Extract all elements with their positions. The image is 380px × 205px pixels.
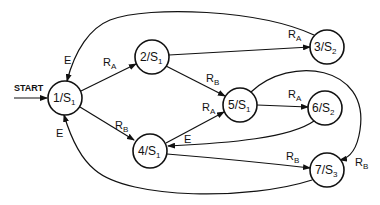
edge-5-6: RA: [257, 88, 308, 107]
svg-text:E: E: [184, 133, 191, 145]
svg-text:RB: RB: [206, 72, 219, 87]
state-node-2: 2/S1: [135, 40, 169, 74]
edge-2-3: RA: [169, 28, 310, 55]
start-label: START: [14, 83, 44, 93]
state-node-6: 6/S2: [308, 91, 342, 125]
state-node-1: 1/S1: [48, 81, 82, 115]
edge-3-1: E: [64, 12, 314, 81]
edge-2-5: RB: [166, 66, 225, 96]
edge-4-5: RA: [166, 101, 224, 143]
edge-1-4: RB: [80, 107, 134, 140]
svg-text:E: E: [64, 54, 71, 66]
svg-text:RB: RB: [286, 150, 299, 165]
svg-text:E: E: [56, 127, 63, 139]
svg-text:RA: RA: [288, 88, 302, 103]
edge-1-2: RA: [81, 56, 136, 91]
edge-7-1: E: [56, 115, 312, 194]
state-diagram: START RA RB RA RB RA RB RA RB E E: [0, 0, 380, 205]
svg-text:RB: RB: [355, 156, 368, 171]
svg-text:RA: RA: [202, 101, 216, 116]
state-node-3: 3/S2: [310, 30, 344, 64]
state-node-4: 4/S1: [133, 134, 167, 168]
state-node-7: 7/S3: [310, 153, 344, 187]
edge-5-7: RB: [251, 71, 368, 171]
edge-4-7: RB: [167, 150, 310, 168]
edge-6-4: E: [168, 121, 314, 146]
start-arrow: START: [14, 83, 47, 98]
svg-text:RA: RA: [288, 28, 302, 43]
svg-text:RA: RA: [103, 56, 117, 71]
state-node-5: 5/S1: [223, 88, 257, 122]
